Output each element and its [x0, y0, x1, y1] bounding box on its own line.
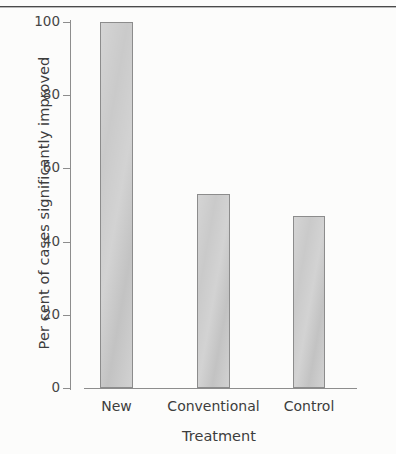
y-axis-tick-label: 100	[0, 15, 60, 29]
bar-control	[293, 216, 325, 388]
y-axis-title: Per cent of cases significantly improved	[36, 13, 52, 393]
x-axis-title: Treatment	[0, 428, 396, 444]
bar-new	[100, 22, 133, 388]
y-axis-tick	[63, 22, 71, 23]
y-axis-tick	[63, 95, 71, 96]
y-axis-line	[70, 20, 71, 390]
y-axis-tick-label: 80	[0, 88, 60, 102]
y-axis-tick	[63, 168, 71, 169]
y-axis-tick	[63, 388, 71, 389]
x-axis-tick-label: Control	[239, 398, 379, 414]
y-axis-tick	[63, 315, 71, 316]
bar-chart-figure: Per cent of cases significantly improved…	[0, 0, 396, 454]
y-axis-tick-label: 20	[0, 308, 60, 322]
y-axis-tick-label: 60	[0, 161, 60, 175]
bar-conventional	[197, 194, 230, 388]
y-axis-tick-label: 40	[0, 235, 60, 249]
y-axis-tick-label: 0	[0, 381, 60, 395]
x-axis-line	[84, 388, 357, 389]
y-axis-tick	[63, 242, 71, 243]
